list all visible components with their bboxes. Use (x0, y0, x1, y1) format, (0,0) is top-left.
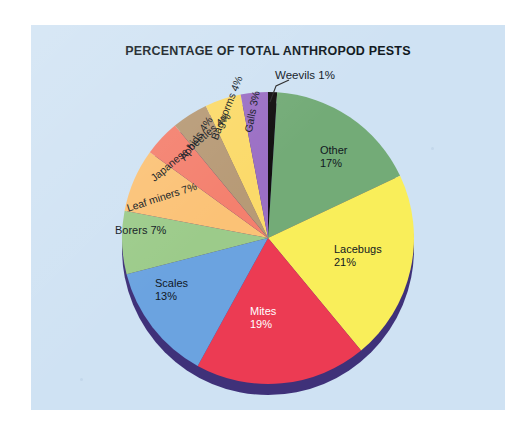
chart-panel: PERCENTAGE OF TOTAL ANTHROPOD PESTS Othe… (31, 25, 505, 410)
slice-label-weevils: Weevils 1% (275, 69, 335, 81)
scan-speck (80, 378, 83, 381)
scan-speck (431, 147, 434, 150)
slice-label-weevils-text: Weevils 1% (275, 69, 335, 81)
pie-slices-group (122, 92, 414, 384)
pie-svg (31, 25, 505, 410)
pie-plot-area: Other 17% Lacebugs 21% Mites 19% Scales … (31, 25, 505, 410)
pie-chart-screenshot: PERCENTAGE OF TOTAL ANTHROPOD PESTS Othe… (0, 0, 530, 429)
